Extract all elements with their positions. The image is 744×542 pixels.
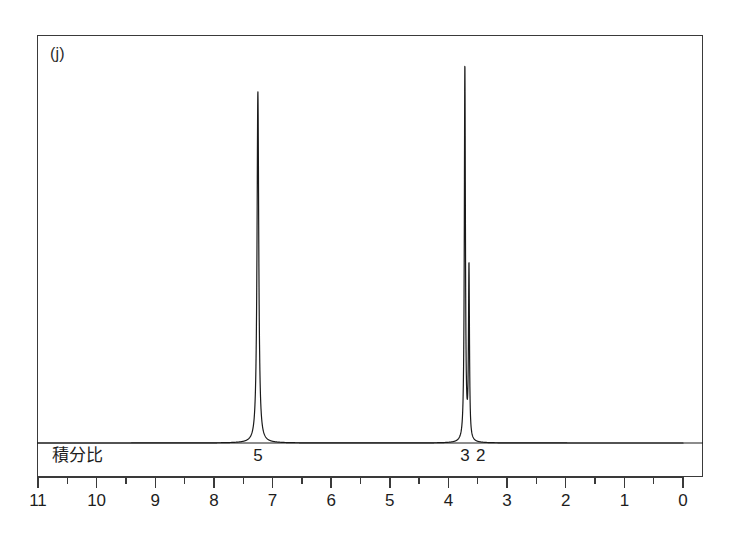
axis-tick-label: 9 bbox=[140, 492, 170, 509]
axis-tick-major bbox=[37, 477, 38, 488]
axis-tick-major bbox=[448, 477, 449, 488]
axis-tick-major bbox=[213, 477, 214, 488]
axis-tick-minor bbox=[301, 477, 302, 484]
axis-tick-major bbox=[272, 477, 273, 488]
axis-tick-minor bbox=[477, 477, 478, 484]
axis-tick-major bbox=[565, 477, 566, 488]
axis-tick-major bbox=[682, 477, 683, 488]
panel-label: (j) bbox=[50, 46, 65, 62]
integration-strip: 積分比 532 bbox=[37, 443, 703, 477]
axis-tick-major bbox=[330, 477, 331, 488]
integration-value: 5 bbox=[248, 447, 268, 464]
spectrum-frame bbox=[37, 35, 703, 477]
axis-tick-minor bbox=[418, 477, 419, 484]
axis-tick-label: 0 bbox=[668, 492, 698, 509]
axis-tick-label: 3 bbox=[492, 492, 522, 509]
axis-tick-label: 10 bbox=[82, 492, 112, 509]
axis-tick-label: 5 bbox=[375, 492, 405, 509]
axis-tick-major bbox=[155, 477, 156, 488]
axis-tick-label: 11 bbox=[23, 492, 53, 509]
ppm-axis: 11109876543210 bbox=[0, 477, 744, 542]
axis-tick-label: 1 bbox=[609, 492, 639, 509]
axis-tick-minor bbox=[243, 477, 244, 484]
axis-tick-minor bbox=[67, 477, 68, 484]
axis-tick-label: 4 bbox=[433, 492, 463, 509]
axis-tick-minor bbox=[653, 477, 654, 484]
axis-tick-minor bbox=[184, 477, 185, 484]
axis-tick-major bbox=[624, 477, 625, 488]
axis-tick-label: 2 bbox=[551, 492, 581, 509]
axis-tick-label: 6 bbox=[316, 492, 346, 509]
axis-tick-major bbox=[96, 477, 97, 488]
axis-tick-minor bbox=[536, 477, 537, 484]
axis-tick-minor bbox=[360, 477, 361, 484]
axis-tick-major bbox=[506, 477, 507, 488]
axis-tick-label: 7 bbox=[258, 492, 288, 509]
integration-value: 2 bbox=[471, 447, 491, 464]
axis-tick-minor bbox=[125, 477, 126, 484]
axis-tick-label: 8 bbox=[199, 492, 229, 509]
axis-tick-major bbox=[389, 477, 390, 488]
nmr-spectrum-figure: (j) 積分比 532 11109876543210 bbox=[0, 0, 744, 542]
axis-tick-minor bbox=[594, 477, 595, 484]
integration-row-label: 積分比 bbox=[52, 447, 103, 464]
